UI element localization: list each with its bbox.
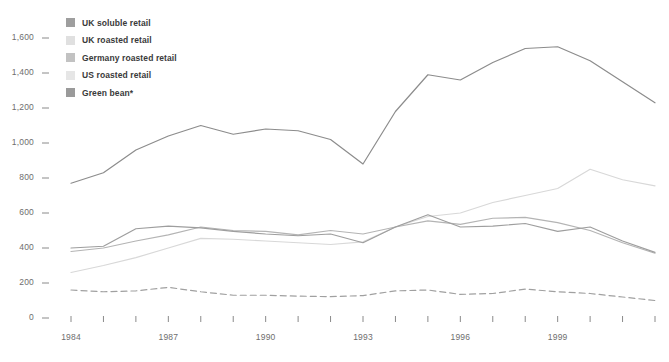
y-axis-tick-label: 1,000: [0, 137, 34, 147]
legend-swatch-icon: [66, 88, 75, 97]
legend-item: Germany roasted retail: [66, 49, 177, 67]
legend-swatch-icon: [66, 53, 75, 62]
x-axis-tick-label: 1993: [338, 332, 388, 342]
legend-item-label: Green bean*: [82, 88, 133, 98]
y-axis-tick-label: 0: [0, 312, 34, 322]
y-axis-tick-label: 400: [0, 242, 34, 252]
legend-item: UK roasted retail: [66, 32, 177, 50]
y-axis-tick-label: 1,400: [0, 67, 34, 77]
y-axis-tick-label: 200: [0, 277, 34, 287]
legend-item-label: UK roasted retail: [82, 35, 152, 45]
line-chart: 02004006008001,0001,2001,4001,600 198419…: [0, 0, 669, 362]
legend-item-label: UK soluble retail: [82, 18, 151, 28]
legend-item: US roasted retail: [66, 67, 177, 85]
y-axis-tick-label: 1,600: [0, 32, 34, 42]
x-axis-tick-label: 1990: [241, 332, 291, 342]
chart-legend: UK soluble retailUK roasted retailGerman…: [66, 14, 177, 102]
series-line: [71, 169, 655, 272]
y-axis-tick-label: 800: [0, 172, 34, 182]
x-axis-tick-label: 1999: [533, 332, 583, 342]
legend-swatch-icon: [66, 36, 75, 45]
x-axis-tick-label: 1984: [46, 332, 96, 342]
series-line: [71, 287, 655, 300]
x-axis-tick-label: 1987: [143, 332, 193, 342]
x-axis-tick-label: 1996: [435, 332, 485, 342]
series-line: [71, 217, 655, 253]
y-axis-tick-label: 1,200: [0, 102, 34, 112]
legend-item-label: US roasted retail: [82, 70, 151, 80]
legend-swatch-icon: [66, 71, 75, 80]
legend-item: Green bean*: [66, 84, 177, 102]
legend-item-label: Germany roasted retail: [82, 53, 177, 63]
y-axis-tick-label: 600: [0, 207, 34, 217]
legend-swatch-icon: [66, 18, 75, 27]
legend-item: UK soluble retail: [66, 14, 177, 32]
